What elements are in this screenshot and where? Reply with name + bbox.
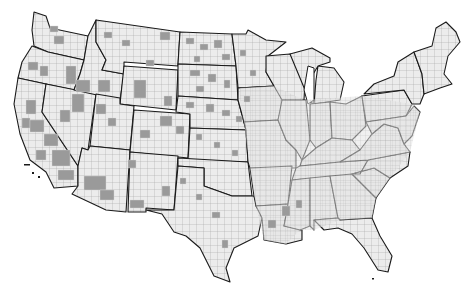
state-montana xyxy=(96,20,180,74)
eastern-county-texture xyxy=(240,86,420,246)
state-florida xyxy=(314,218,392,272)
us-county-map xyxy=(0,0,466,285)
